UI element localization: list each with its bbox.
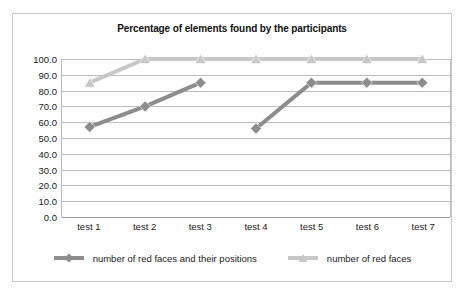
x-axis-tick-label: test 7 bbox=[395, 221, 451, 237]
series-layer bbox=[62, 59, 450, 217]
x-axis-tick-label: test 2 bbox=[117, 221, 173, 237]
legend-label: number of red faces and their positions bbox=[93, 253, 257, 264]
y-axis-tick-label: 0.0 bbox=[13, 212, 57, 223]
legend-swatch-triangle-icon bbox=[287, 252, 319, 264]
x-axis-tick-label: test 4 bbox=[228, 221, 284, 237]
x-axis-tick-label: test 1 bbox=[61, 221, 117, 237]
gridline bbox=[62, 217, 450, 218]
legend-item-red-faces-and-positions: number of red faces and their positions bbox=[53, 252, 257, 264]
y-axis-tick-label: 40.0 bbox=[13, 148, 57, 159]
y-axis-tick-label: 60.0 bbox=[13, 117, 57, 128]
x-axis-tick-label: test 5 bbox=[284, 221, 340, 237]
data-point-marker bbox=[84, 121, 95, 132]
data-point-marker bbox=[361, 77, 372, 88]
y-axis-tick-label: 100.0 bbox=[13, 54, 57, 65]
legend-swatch-diamond-icon bbox=[53, 252, 85, 264]
y-axis-tick-label: 80.0 bbox=[13, 85, 57, 96]
y-axis-labels: 100.090.080.070.060.050.040.030.020.010.… bbox=[13, 59, 57, 217]
legend-item-red-faces: number of red faces bbox=[287, 252, 412, 264]
y-axis-tick-label: 90.0 bbox=[13, 69, 57, 80]
x-axis-tick-label: test 3 bbox=[172, 221, 228, 237]
chart-title: Percentage of elements found by the part… bbox=[13, 23, 451, 34]
legend-label: number of red faces bbox=[327, 253, 412, 264]
x-axis-labels: test 1test 2test 3test 4test 5test 6test… bbox=[61, 221, 451, 237]
y-axis-tick-label: 30.0 bbox=[13, 164, 57, 175]
chart-legend: number of red faces and their positions … bbox=[13, 246, 451, 270]
x-axis-tick-label: test 6 bbox=[340, 221, 396, 237]
y-axis-tick-label: 20.0 bbox=[13, 180, 57, 191]
series-line bbox=[256, 83, 422, 129]
chart-container: Percentage of elements found by the part… bbox=[12, 13, 452, 282]
y-axis-tick-label: 10.0 bbox=[13, 196, 57, 207]
plot-area bbox=[61, 59, 451, 217]
y-axis-tick-label: 70.0 bbox=[13, 101, 57, 112]
data-point-marker bbox=[195, 77, 206, 88]
data-point-marker bbox=[417, 77, 428, 88]
data-point-marker bbox=[140, 101, 151, 112]
y-axis-tick-label: 50.0 bbox=[13, 133, 57, 144]
